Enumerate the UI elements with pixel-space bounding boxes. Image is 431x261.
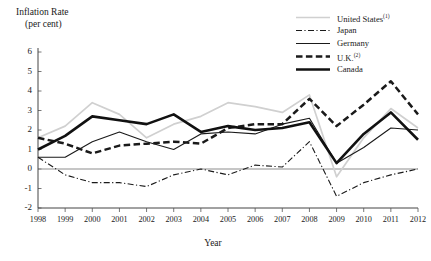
y-axis-tick-label: -2 xyxy=(12,203,32,212)
y-axis-tick-label: 5 xyxy=(12,67,32,76)
legend-swatch-icon xyxy=(296,39,330,48)
x-axis-title: Year xyxy=(0,238,426,248)
series-line-canada xyxy=(38,112,418,163)
y-axis-tick-label: 0 xyxy=(12,164,32,173)
legend-footnote-marker: (1) xyxy=(383,13,390,19)
legend-label: Canada xyxy=(337,65,363,74)
y-axis-tick-label: 6 xyxy=(12,47,32,56)
y-axis-tick-label: 1 xyxy=(12,145,32,154)
legend-item-canada[interactable]: Canada xyxy=(296,63,390,76)
y-axis-tick-label: -1 xyxy=(12,184,32,193)
legend-label: United States(1) xyxy=(337,12,390,24)
legend-footnote-marker: (2) xyxy=(354,52,361,58)
y-axis-tick-label: 2 xyxy=(12,125,32,134)
legend-label: Germany xyxy=(337,39,369,48)
x-axis-tick-label: 2012 xyxy=(401,215,431,224)
chart-legend: United States(1)JapanGermanyU.K.(2)Canad… xyxy=(296,11,390,76)
legend-item-japan[interactable]: Japan xyxy=(296,24,390,37)
legend-swatch-icon xyxy=(296,13,330,22)
y-axis-tick-label: 4 xyxy=(12,86,32,95)
legend-label: U.K.(2) xyxy=(337,51,360,63)
legend-item-u-k[interactable]: U.K.(2) xyxy=(296,50,390,63)
legend-item-germany[interactable]: Germany xyxy=(296,37,390,50)
legend-swatch-icon xyxy=(296,26,330,35)
legend-item-united-states[interactable]: United States(1) xyxy=(296,11,390,24)
y-axis-tick-label: 3 xyxy=(12,106,32,115)
legend-swatch-icon xyxy=(296,65,330,74)
legend-swatch-icon xyxy=(296,52,330,61)
legend-label: Japan xyxy=(337,26,357,35)
